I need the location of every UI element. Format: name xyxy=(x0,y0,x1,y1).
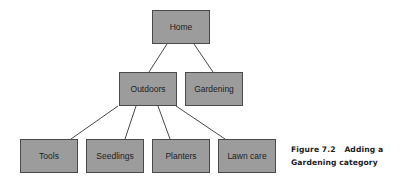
caption-line-2: Gardening category xyxy=(291,156,383,169)
edge-home-outdoors xyxy=(149,44,167,72)
caption-line-1: Figure 7.2 Adding a xyxy=(291,143,383,156)
node-gardening: Gardening xyxy=(185,72,243,106)
edge-outdoors-lawn-care xyxy=(176,106,225,139)
figure-caption: Figure 7.2 Adding a Gardening category xyxy=(291,143,383,169)
node-home: Home xyxy=(152,10,210,44)
node-outdoors: Outdoors xyxy=(119,72,177,106)
edge-outdoors-seedlings xyxy=(125,106,136,139)
node-tools: Tools xyxy=(20,139,78,173)
node-planters-label: Planters xyxy=(165,151,196,161)
node-lawn-care-label: Lawn care xyxy=(227,151,266,161)
node-gardening-label: Gardening xyxy=(194,84,234,94)
node-tools-label: Tools xyxy=(39,151,59,161)
node-home-label: Home xyxy=(170,22,193,32)
node-seedlings: Seedlings xyxy=(86,139,144,173)
node-seedlings-label: Seedlings xyxy=(96,151,133,161)
node-planters: Planters xyxy=(152,139,210,173)
caption-text-1: Adding a xyxy=(344,145,383,154)
figure-number: Figure 7.2 xyxy=(291,145,336,154)
edge-home-gardening xyxy=(194,44,213,72)
edge-outdoors-tools xyxy=(71,106,118,139)
node-lawn-care: Lawn care xyxy=(218,139,276,173)
edge-outdoors-planters xyxy=(158,106,170,139)
node-outdoors-label: Outdoors xyxy=(131,84,166,94)
